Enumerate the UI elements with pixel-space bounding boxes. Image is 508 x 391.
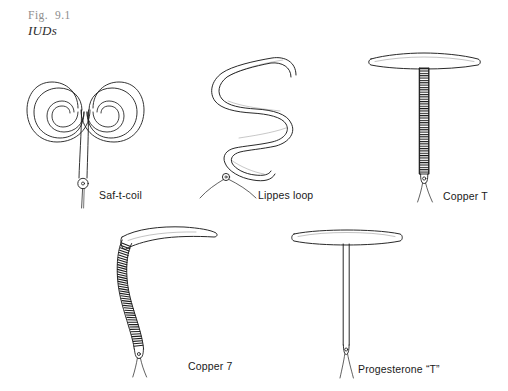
device-copper-t (369, 53, 481, 202)
figure-title: IUDs (28, 23, 71, 39)
label-lippes-loop: Lippes loop (258, 189, 313, 201)
device-progesterone-t (292, 230, 403, 378)
device-copper-7 (117, 227, 217, 377)
label-progesterone-t: Progesterone “T” (358, 363, 440, 375)
label-saf-t-coil: Saf-t-coil (99, 189, 142, 201)
iud-figure-illustration (0, 0, 508, 391)
figure-number: Fig. 9.1 (28, 8, 71, 22)
device-lippes-loop (200, 58, 296, 198)
figure-caption: Fig. 9.1 IUDs (28, 8, 71, 40)
label-copper-t: Copper T (443, 190, 488, 202)
label-copper-7: Copper 7 (188, 360, 232, 372)
